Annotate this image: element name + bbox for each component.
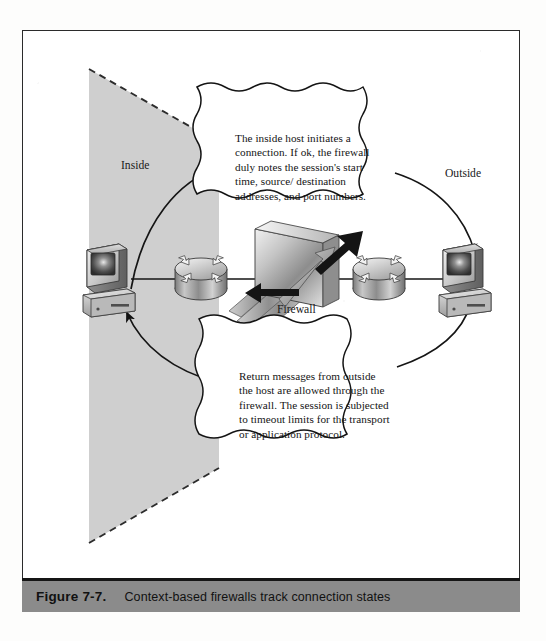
outbound-flow-arc-2 (395, 173, 475, 253)
figure-frame: The inside host initiates a connection. … (22, 30, 520, 580)
figure-caption-bar: Figure 7-7. Context-based firewalls trac… (22, 578, 520, 612)
callout-outbound: The inside host initiates a connection. … (217, 117, 391, 225)
outside-router-icon (353, 256, 405, 300)
firewall-label: Firewall (277, 303, 316, 316)
callout-inbound: Return messages from outside the host ar… (219, 349, 401, 469)
scanned-page: The inside host initiates a connection. … (0, 0, 546, 641)
inside-router-icon (175, 256, 227, 300)
outside-host-icon (439, 244, 491, 317)
network-diagram (23, 31, 520, 580)
figure-number-label: Figure 7-7. (36, 589, 106, 604)
inside-zone-label: Inside (121, 159, 149, 172)
callout-inbound-text: Return messages from outside the host ar… (239, 369, 391, 441)
figure-caption-text: Context-based firewalls track connection… (124, 590, 390, 604)
callout-outbound-text: The inside host initiates a connection. … (235, 131, 385, 203)
outside-zone-label: Outside (445, 167, 481, 180)
inside-host-icon (83, 244, 135, 317)
